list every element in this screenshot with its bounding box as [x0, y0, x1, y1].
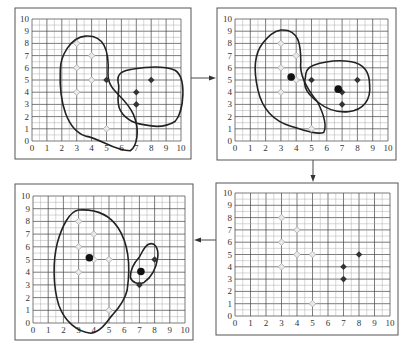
- centroid-marker: [86, 254, 94, 262]
- svg-text:6: 6: [25, 63, 30, 73]
- svg-text:5: 5: [25, 75, 30, 85]
- svg-text:8: 8: [26, 216, 31, 226]
- svg-text:1: 1: [26, 305, 31, 315]
- svg-text:2: 2: [264, 318, 269, 328]
- svg-text:9: 9: [228, 26, 233, 36]
- panel-frame: [216, 183, 398, 335]
- panel-step-2: 012345678910012345678910: [217, 8, 396, 160]
- centroid-marker: [137, 268, 145, 276]
- centroid-marker: [334, 85, 342, 93]
- svg-text:4: 4: [89, 143, 94, 153]
- panel-frame: [15, 8, 191, 159]
- svg-text:6: 6: [119, 143, 124, 153]
- svg-text:5: 5: [310, 318, 315, 328]
- svg-text:9: 9: [25, 26, 30, 36]
- svg-text:8: 8: [228, 213, 233, 223]
- svg-text:8: 8: [152, 325, 157, 335]
- arrow-down: [311, 160, 316, 182]
- svg-text:10: 10: [20, 14, 30, 24]
- svg-text:9: 9: [370, 143, 375, 153]
- svg-text:7: 7: [341, 318, 346, 328]
- svg-text:4: 4: [294, 143, 299, 153]
- svg-text:4: 4: [295, 318, 300, 328]
- svg-text:1: 1: [228, 299, 233, 309]
- svg-text:10: 10: [223, 14, 233, 24]
- svg-text:3: 3: [279, 143, 284, 153]
- svg-text:9: 9: [228, 200, 233, 210]
- svg-text:3: 3: [74, 143, 79, 153]
- svg-text:4: 4: [26, 267, 31, 277]
- svg-text:8: 8: [25, 38, 30, 48]
- svg-text:7: 7: [25, 51, 30, 61]
- svg-text:9: 9: [164, 143, 169, 153]
- svg-text:3: 3: [279, 318, 284, 328]
- svg-text:1: 1: [46, 325, 51, 335]
- svg-text:2: 2: [60, 143, 65, 153]
- svg-text:6: 6: [325, 143, 330, 153]
- panel-step-3: 012345678910012345678910: [216, 183, 398, 335]
- panel-step-4: 012345678910012345678910: [15, 184, 193, 340]
- svg-text:1: 1: [248, 318, 253, 328]
- svg-text:8: 8: [357, 318, 362, 328]
- svg-text:6: 6: [228, 63, 233, 73]
- svg-text:5: 5: [228, 250, 233, 260]
- svg-text:0: 0: [228, 311, 233, 321]
- svg-text:5: 5: [228, 75, 233, 85]
- svg-text:4: 4: [25, 87, 30, 97]
- svg-text:9: 9: [372, 318, 377, 328]
- svg-text:0: 0: [233, 318, 238, 328]
- kmeans-diagram: 012345678910012345678910 012345678910012…: [0, 0, 409, 349]
- svg-text:3: 3: [25, 99, 30, 109]
- svg-text:7: 7: [228, 225, 233, 235]
- svg-text:4: 4: [228, 87, 233, 97]
- arrow-left: [194, 238, 216, 243]
- svg-text:3: 3: [228, 274, 233, 284]
- svg-text:3: 3: [26, 280, 31, 290]
- svg-text:6: 6: [122, 325, 127, 335]
- svg-text:0: 0: [31, 325, 36, 335]
- svg-text:2: 2: [228, 112, 233, 122]
- svg-text:10: 10: [21, 191, 31, 201]
- svg-text:2: 2: [25, 112, 30, 122]
- svg-text:2: 2: [263, 143, 268, 153]
- svg-text:9: 9: [26, 204, 31, 214]
- svg-text:1: 1: [248, 143, 253, 153]
- svg-text:10: 10: [181, 325, 191, 335]
- svg-text:5: 5: [107, 325, 112, 335]
- svg-text:8: 8: [149, 143, 154, 153]
- svg-text:7: 7: [137, 325, 142, 335]
- svg-text:1: 1: [228, 124, 233, 134]
- svg-text:2: 2: [26, 293, 31, 303]
- svg-text:0: 0: [30, 143, 35, 153]
- svg-text:1: 1: [25, 124, 30, 134]
- svg-text:4: 4: [228, 262, 233, 272]
- svg-text:7: 7: [26, 229, 31, 239]
- svg-text:10: 10: [384, 143, 394, 153]
- svg-text:0: 0: [26, 318, 31, 328]
- svg-text:0: 0: [25, 136, 30, 146]
- svg-text:8: 8: [228, 38, 233, 48]
- svg-text:0: 0: [228, 136, 233, 146]
- svg-text:5: 5: [26, 255, 31, 265]
- svg-text:6: 6: [26, 242, 31, 252]
- svg-text:1: 1: [45, 143, 50, 153]
- svg-text:0: 0: [233, 143, 238, 153]
- svg-text:5: 5: [309, 143, 314, 153]
- svg-text:6: 6: [326, 318, 331, 328]
- centroid-marker: [287, 73, 295, 81]
- svg-text:6: 6: [228, 237, 233, 247]
- svg-text:2: 2: [61, 325, 66, 335]
- svg-text:7: 7: [228, 51, 233, 61]
- svg-text:9: 9: [168, 325, 173, 335]
- svg-text:10: 10: [177, 143, 187, 153]
- svg-text:7: 7: [340, 143, 345, 153]
- svg-text:3: 3: [228, 99, 233, 109]
- svg-text:10: 10: [386, 318, 396, 328]
- svg-text:2: 2: [228, 286, 233, 296]
- panel-step-1: 012345678910012345678910: [15, 8, 191, 159]
- arrow-right: [191, 76, 216, 81]
- svg-text:10: 10: [223, 188, 233, 198]
- svg-text:8: 8: [355, 143, 360, 153]
